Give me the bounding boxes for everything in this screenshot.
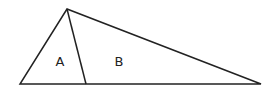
region-label-a: A bbox=[56, 54, 65, 69]
divider-segment bbox=[67, 9, 86, 84]
triangle-diagram: A B bbox=[0, 0, 272, 91]
region-label-b: B bbox=[115, 54, 124, 69]
outer-triangle bbox=[20, 9, 261, 84]
